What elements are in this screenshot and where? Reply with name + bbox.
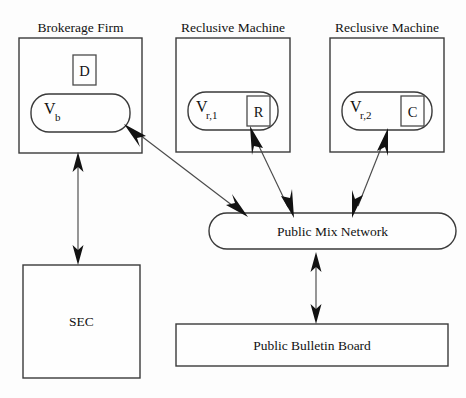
reclusive-machine-2-vault-sub-label: r,2: [360, 109, 371, 121]
sec-label: SEC: [69, 314, 94, 329]
public-bulletin-board-label: Public Bulletin Board: [253, 338, 371, 353]
sec-node[interactable]: SEC: [23, 265, 140, 378]
brokerage-firm-caption: Brokerage Firm: [38, 20, 124, 35]
reclusive-machine-1-caption: Reclusive Machine: [181, 20, 285, 35]
reclusive-machine-2-caption: Reclusive Machine: [335, 20, 439, 35]
public-mix-network-label: Public Mix Network: [277, 224, 388, 239]
architecture-diagram: Brokerage Firm Reclusive Machine Reclusi…: [0, 0, 466, 398]
reclusive-machine-1-vault-sub-label: r,1: [206, 109, 217, 121]
public-bulletin-board-node[interactable]: Public Bulletin Board: [176, 324, 448, 366]
brokerage-d-label: D: [79, 63, 89, 79]
brokerage-firm-node[interactable]: D V b: [19, 38, 142, 153]
public-mix-network-node[interactable]: Public Mix Network: [209, 213, 456, 249]
reclusive-machine-1-node[interactable]: V r,1 R: [176, 38, 290, 152]
brokerage-vault-sub-label: b: [55, 111, 61, 123]
edge-brokerage-sec: [73, 152, 84, 265]
reclusive-machine-1-r-label: R: [254, 104, 264, 120]
diagram-canvas: Brokerage Firm Reclusive Machine Reclusi…: [0, 0, 466, 398]
reclusive-machine-2-c-label: C: [408, 104, 418, 120]
edge-mix-bulletin: [311, 252, 322, 324]
